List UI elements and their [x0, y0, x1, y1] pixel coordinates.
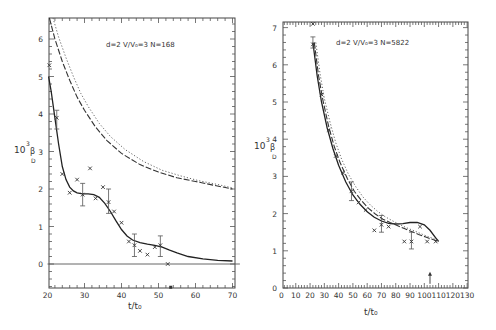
x-marker-point	[68, 191, 72, 195]
y-tick-label: 6	[38, 35, 43, 44]
left-y-axis-label: 10 3 β D	[14, 140, 36, 164]
x-tick-label: 130	[460, 291, 475, 300]
dashed-curve	[314, 43, 438, 242]
x-marker-point	[425, 240, 429, 244]
figure: 2030405060700123456 d=2 V/V₀=3 N=168 10 …	[0, 0, 496, 330]
x-tick-label: 20	[305, 291, 315, 300]
x-marker-point	[373, 229, 377, 233]
x-marker-point	[88, 167, 92, 171]
x-marker-point	[94, 197, 98, 201]
x-tick-label: 120	[446, 291, 461, 300]
left-axis-ticks: 2030405060700123456	[38, 18, 237, 300]
y-tick-label: 1	[272, 247, 277, 256]
y-tick-label: 2	[272, 210, 277, 219]
svg-text:D: D	[272, 153, 277, 160]
x-marker-point	[75, 178, 79, 182]
x-tick-label: 70	[377, 291, 387, 300]
x-marker-point	[138, 249, 142, 253]
left-data-points	[48, 63, 173, 288]
x-marker-point	[61, 172, 65, 176]
x-tick-label: 60	[191, 291, 201, 300]
axis-marker	[169, 286, 172, 289]
y-tick-label: 0	[272, 284, 277, 293]
x-tick-label: 10	[291, 291, 301, 300]
x-tick-label: 30	[320, 291, 330, 300]
left-plot-frame	[49, 18, 235, 288]
y-tick-label: 3	[272, 172, 277, 181]
x-marker-point	[403, 240, 407, 244]
x-tick-label: 90	[405, 291, 415, 300]
x-marker-point	[120, 221, 124, 225]
x-marker-point	[146, 253, 150, 257]
x-marker-point	[357, 201, 361, 205]
svg-text:3: 3	[266, 136, 270, 143]
x-tick-label: 20	[43, 291, 53, 300]
solid-curve	[49, 77, 233, 262]
svg-text:β: β	[30, 147, 35, 156]
x-marker-point	[101, 185, 105, 189]
left-panel: 2030405060700123456 d=2 V/V₀=3 N=168 10 …	[14, 18, 240, 311]
right-plot-frame	[283, 22, 468, 288]
x-tick-label: 110	[431, 291, 446, 300]
right-panel: 010203040506070809010011012013001234567 …	[254, 22, 475, 317]
x-marker-point	[387, 225, 391, 229]
left-x-axis-label: t/t₀	[128, 301, 142, 311]
right-curves	[313, 43, 439, 242]
figure-svg: 2030405060700123456 d=2 V/V₀=3 N=168 10 …	[0, 0, 496, 330]
y-tick-label: 1	[38, 223, 43, 232]
x-tick-label: 50	[348, 291, 358, 300]
y-tick-label: 5	[272, 98, 277, 107]
y-tick-label: 5	[38, 73, 43, 82]
y-tick-label: 3	[38, 148, 43, 157]
y-tick-label: 7	[272, 24, 277, 33]
right-x-axis-label: t/t₀	[364, 307, 378, 317]
left-curves	[48, 18, 240, 264]
x-tick-label: 50	[154, 291, 164, 300]
right-data-points	[310, 22, 437, 284]
solid-curve	[313, 43, 439, 242]
arrow-head-icon	[428, 272, 432, 276]
dotted-curve	[316, 43, 439, 241]
x-tick-label: 30	[80, 291, 90, 300]
y-tick-label: 6	[272, 61, 277, 70]
x-marker-point	[127, 240, 131, 244]
svg-text:β: β	[270, 143, 275, 152]
svg-text:D: D	[31, 157, 36, 164]
y-tick-label: 4	[38, 110, 43, 119]
y-tick-label: 0	[38, 260, 43, 269]
x-marker-point	[112, 210, 116, 214]
x-tick-label: 80	[391, 291, 401, 300]
x-tick-label: 60	[362, 291, 372, 300]
x-tick-label: 40	[117, 291, 127, 300]
right-axis-ticks: 010203040506070809010011012013001234567	[272, 22, 474, 300]
svg-text:10: 10	[14, 145, 26, 155]
right-annotation: d=2 V/V₀=3 N=5822	[336, 39, 409, 47]
svg-text:3: 3	[26, 140, 30, 147]
left-annotation: d=2 V/V₀=3 N=168	[106, 41, 175, 49]
x-tick-label: 100	[417, 291, 432, 300]
x-tick-label: 70	[228, 291, 238, 300]
x-tick-label: 40	[334, 291, 344, 300]
x-tick-label: 0	[279, 291, 284, 300]
y-tick-label: 2	[38, 185, 43, 194]
x-marker-point	[418, 225, 422, 229]
svg-text:10: 10	[254, 141, 266, 151]
